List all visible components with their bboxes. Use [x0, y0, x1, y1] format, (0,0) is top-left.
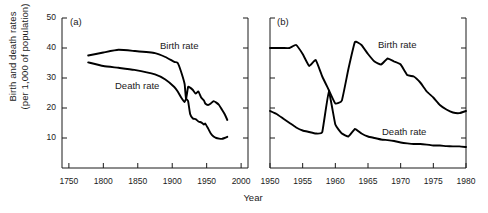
x-tick-label: 1850 — [122, 176, 154, 186]
panel-a-axes — [62, 18, 248, 168]
x-tick-label: 1800 — [87, 176, 119, 186]
figure-container: Birth and death rates (per 1,000 of popu… — [0, 0, 488, 213]
panel-b-tag: (b) — [277, 16, 289, 27]
y-tick-label: 40 — [34, 42, 56, 52]
panel-b-birth-rate-line — [270, 42, 466, 113]
y-tick-label: 10 — [34, 132, 56, 142]
panel-a-death-rate-label: Death rate — [115, 80, 159, 91]
panel-a-death-rate-line — [88, 62, 227, 139]
x-axis-title: Year — [213, 192, 293, 203]
x-tick-label: 2000 — [225, 176, 257, 186]
x-tick-label: 1950 — [254, 176, 286, 186]
panel-b-birth-rate-label: Birth rate — [378, 39, 417, 50]
x-tick-label: 1980 — [450, 176, 482, 186]
x-tick-label: 1950 — [191, 176, 223, 186]
x-tick-label: 1900 — [156, 176, 188, 186]
x-tick-label: 1750 — [53, 176, 85, 186]
x-tick-label: 1965 — [352, 176, 384, 186]
panel-a-birth-rate-label: Birth rate — [160, 40, 199, 51]
y-tick-label: 30 — [34, 72, 56, 82]
y-axis-title: Birth and death rates (per 1,000 of popu… — [7, 0, 30, 137]
y-tick-label: 50 — [34, 12, 56, 22]
x-tick-label: 1975 — [417, 176, 449, 186]
x-tick-label: 1960 — [319, 176, 351, 186]
y-tick-label: 20 — [34, 102, 56, 112]
panel-b-death-rate-label: Death rate — [382, 126, 426, 137]
x-tick-label: 1955 — [287, 176, 319, 186]
x-tick-label: 1970 — [385, 176, 417, 186]
panel-a-ticks — [62, 18, 248, 168]
panel-a-tick-marks — [62, 18, 248, 168]
panel-a-tag: (a) — [70, 16, 82, 27]
